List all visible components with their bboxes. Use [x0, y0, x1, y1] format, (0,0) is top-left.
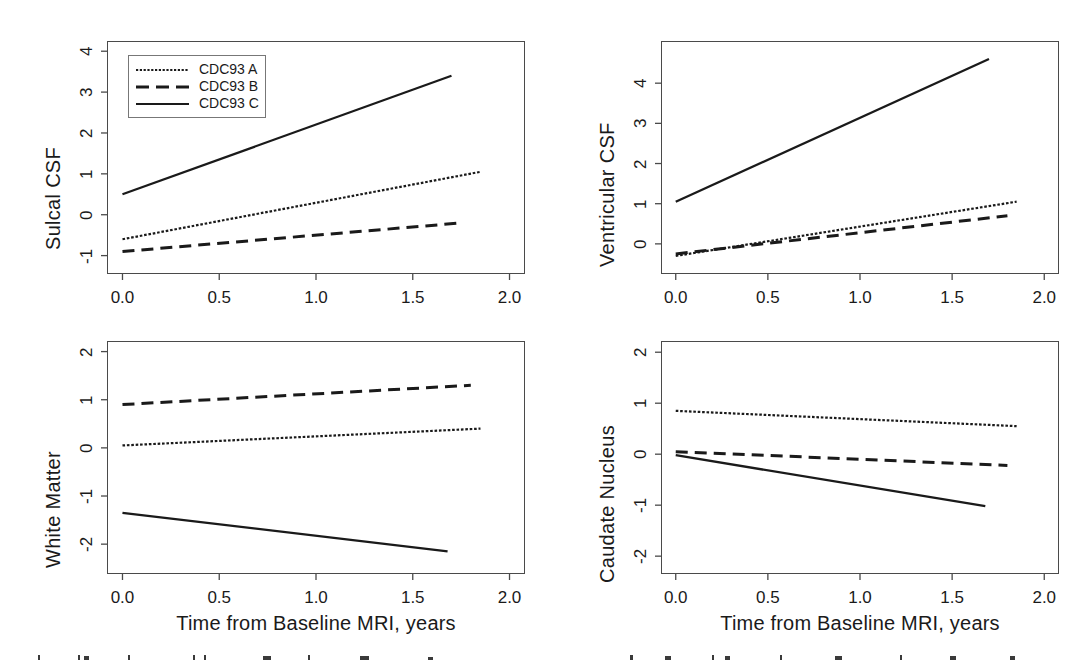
- panel-caudate-nucleus-xlabel: Time from Baseline MRI, years: [661, 612, 1059, 635]
- legend-label-cdc93-a: CDC93 A: [199, 61, 257, 78]
- cropped-caption-strip: [0, 646, 1069, 664]
- panel-white-matter-xtick: 0.0: [97, 588, 147, 608]
- multi-panel-line-chart-figure: Sulcal CSF CDC93 A CDC93 B CDC93 C: [0, 0, 1069, 664]
- panel-white-matter-ytick: 0: [77, 436, 97, 460]
- panel-caudate-nucleus-xtick: 0.0: [651, 588, 701, 608]
- panel-caudate-nucleus-ytick: -1: [631, 493, 651, 517]
- panel-ventricular-csf-xtick: 1.0: [835, 288, 885, 308]
- panel-ventricular-csf-xtick: 2.0: [1019, 288, 1069, 308]
- panel-white-matter-xtick: 1.5: [388, 588, 438, 608]
- panel-sulcal-csf-xtick: 0.0: [97, 288, 147, 308]
- panel-caudate-nucleus-ytick: 1: [631, 391, 651, 415]
- panel-sulcal-csf-series-cdc93-b: [122, 223, 461, 252]
- panel-sulcal-csf-xtick: 1.5: [388, 288, 438, 308]
- legend-swatch-solid-icon: [135, 98, 190, 110]
- panel-white-matter-ytick: 2: [77, 340, 97, 364]
- panel-ventricular-csf-series-cdc93-a: [676, 202, 1017, 256]
- panel-ventricular-csf-series-cdc93-c: [676, 59, 989, 202]
- panel-white-matter-ytick: -1: [77, 484, 97, 508]
- panel-caudate-nucleus-ytick: 2: [631, 340, 651, 364]
- panel-white-matter-xtick: 2.0: [485, 588, 535, 608]
- panel-sulcal-csf-xtick: 2.0: [485, 288, 535, 308]
- legend-label-cdc93-c: CDC93 C: [199, 95, 259, 112]
- panel-sulcal-csf-series-cdc93-a: [122, 172, 480, 239]
- panel-white-matter-ytick: -2: [77, 532, 97, 556]
- legend-item-cdc93-b: CDC93 B: [135, 78, 258, 95]
- panel-caudate-nucleus: Caudate Nucleus Time from Baseline MRI, …: [534, 313, 1069, 648]
- legend-item-cdc93-a: CDC93 A: [135, 61, 258, 78]
- panel-white-matter-series-cdc93-b: [122, 385, 470, 404]
- panel-caudate-nucleus-ytick: 0: [631, 442, 651, 466]
- panel-ventricular-csf-xtick: 0.5: [743, 288, 793, 308]
- panel-sulcal-csf-ytick: 0: [77, 203, 97, 227]
- panel-sulcal-csf-ytick: 1: [77, 162, 97, 186]
- panel-caudate-nucleus-ytick: -2: [631, 544, 651, 568]
- panel-ventricular-csf-canvas: [534, 0, 1069, 332]
- panel-white-matter-xtick: 1.0: [291, 588, 341, 608]
- panel-ventricular-csf-ytick: 4: [631, 71, 651, 95]
- panel-ventricular-csf: Ventricular CSF 012340.00.51.01.52.0: [534, 0, 1069, 332]
- panel-white-matter-xlabel: Time from Baseline MRI, years: [107, 612, 525, 635]
- panel-ventricular-csf-ytick: 2: [631, 152, 651, 176]
- panel-caudate-nucleus-series-cdc93-a: [676, 411, 1017, 426]
- panel-caudate-nucleus-xtick: 1.0: [835, 588, 885, 608]
- caption-right-fragment: [620, 646, 1060, 664]
- caption-left-fragment: [8, 646, 528, 664]
- legend-item-cdc93-c: CDC93 C: [135, 95, 258, 112]
- panel-white-matter-series-cdc93-a: [122, 429, 480, 446]
- panel-ventricular-csf-ytick: 0: [631, 232, 651, 256]
- panel-sulcal-csf-ytick: -1: [77, 244, 97, 268]
- legend-swatch-dashed-icon: [135, 81, 190, 93]
- legend: CDC93 A CDC93 B CDC93 C: [128, 55, 266, 118]
- panel-caudate-nucleus-xtick: 2.0: [1019, 588, 1069, 608]
- panel-white-matter-ytick: 1: [77, 388, 97, 412]
- panel-white-matter-series-cdc93-c: [122, 513, 447, 552]
- panel-caudate-nucleus-series-cdc93-c: [676, 455, 986, 506]
- panel-caudate-nucleus-canvas: [534, 313, 1069, 648]
- panel-ventricular-csf-ytick: 3: [631, 111, 651, 135]
- panel-ventricular-csf-xtick: 0.0: [651, 288, 701, 308]
- panel-caudate-nucleus-xtick: 0.5: [743, 588, 793, 608]
- legend-swatch-dotted-icon: [135, 64, 190, 76]
- panel-white-matter: White Matter Time from Baseline MRI, yea…: [0, 313, 535, 648]
- panel-sulcal-csf-ytick: 2: [77, 121, 97, 145]
- panel-sulcal-csf-xtick: 0.5: [194, 288, 244, 308]
- panel-caudate-nucleus-xtick: 1.5: [927, 588, 977, 608]
- panel-ventricular-csf-ytick: 1: [631, 192, 651, 216]
- panel-ventricular-csf-xtick: 1.5: [927, 288, 977, 308]
- legend-label-cdc93-b: CDC93 B: [199, 78, 258, 95]
- panel-sulcal-csf-ytick: 4: [77, 39, 97, 63]
- panel-sulcal-csf-ytick: 3: [77, 80, 97, 104]
- panel-white-matter-xtick: 0.5: [194, 588, 244, 608]
- panel-sulcal-csf-xtick: 1.0: [291, 288, 341, 308]
- panel-sulcal-csf: Sulcal CSF CDC93 A CDC93 B CDC93 C: [0, 0, 535, 332]
